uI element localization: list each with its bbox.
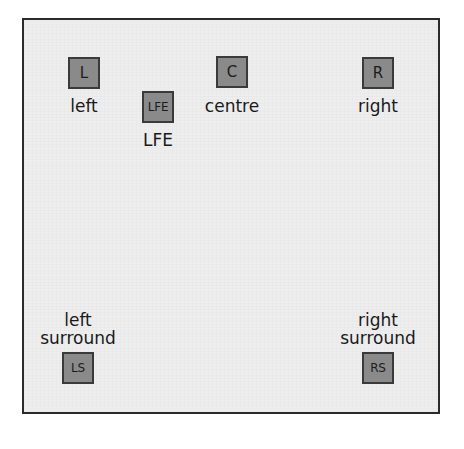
- speaker-right-label: right: [358, 97, 398, 115]
- speaker-left-box[interactable]: L: [68, 57, 100, 89]
- speaker-right-surround-abbreviation: RS: [370, 362, 386, 374]
- speaker-centre[interactable]: C centre: [216, 56, 248, 88]
- speaker-left-surround[interactable]: LS left surround: [62, 352, 94, 384]
- speaker-right-surround-label-line-1: right: [340, 311, 416, 329]
- speaker-left-surround-label-line-1: left: [40, 311, 116, 329]
- speaker-left[interactable]: L left: [68, 57, 100, 89]
- speaker-right-surround[interactable]: RS right surround: [362, 352, 394, 384]
- speaker-right[interactable]: R right: [362, 57, 394, 89]
- speaker-left-surround-box[interactable]: LS: [62, 352, 94, 384]
- speaker-lfe-box[interactable]: LFE: [142, 91, 174, 123]
- speaker-right-surround-label: right surround: [340, 311, 416, 347]
- speaker-centre-label: centre: [205, 97, 259, 115]
- speaker-right-label-line-1: right: [358, 97, 398, 115]
- speaker-left-surround-label: left surround: [40, 311, 116, 347]
- speaker-layout-diagram: L left LFE LFE C centre R right: [22, 18, 440, 414]
- speaker-centre-box[interactable]: C: [216, 56, 248, 88]
- speaker-left-surround-abbreviation: LS: [71, 362, 85, 374]
- speaker-left-label-line-1: left: [70, 97, 98, 115]
- speaker-right-box[interactable]: R: [362, 57, 394, 89]
- speaker-left-label: left: [70, 97, 98, 115]
- speaker-centre-label-line-1: centre: [205, 97, 259, 115]
- speaker-lfe-abbreviation: LFE: [148, 101, 169, 113]
- speaker-left-abbreviation: L: [80, 66, 89, 81]
- speaker-right-surround-box[interactable]: RS: [362, 352, 394, 384]
- speaker-lfe-label: LFE: [143, 131, 173, 149]
- speaker-left-surround-label-line-2: surround: [40, 329, 116, 347]
- speaker-right-surround-label-line-2: surround: [340, 329, 416, 347]
- speaker-lfe[interactable]: LFE LFE: [142, 91, 174, 123]
- speaker-right-abbreviation: R: [373, 66, 384, 81]
- speaker-centre-abbreviation: C: [227, 65, 238, 80]
- speaker-lfe-label-line-1: LFE: [143, 131, 173, 149]
